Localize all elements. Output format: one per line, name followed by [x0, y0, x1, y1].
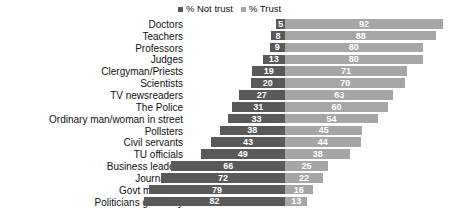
bar-value-not-trust: 5 — [276, 19, 285, 28]
chart-row: Ordinary man/woman in street3354 — [0, 113, 459, 125]
bar-not-trust: 8 — [271, 31, 285, 41]
bar-trust: 60 — [285, 102, 388, 112]
chart-row: Civil servants4344 — [0, 136, 459, 148]
bar-trust: 16 — [285, 185, 313, 195]
bar-value-not-trust: 72 — [161, 173, 285, 182]
chart-row: Professors980 — [0, 42, 459, 54]
bar-not-trust: 72 — [161, 173, 285, 183]
bar-value-trust: 88 — [285, 31, 436, 40]
bar-trust: 38 — [285, 149, 350, 159]
chart-row: Business leaders6625 — [0, 160, 459, 172]
chart-row: Govt ministers7916 — [0, 184, 459, 196]
bar-trust: 63 — [285, 90, 393, 100]
bar-group: 888 — [0, 31, 459, 41]
diverging-bar-chart: % Not trust % Trust Doctors592Teachers88… — [0, 0, 459, 216]
bar-group: 2763 — [0, 90, 459, 100]
chart-row: Pollsters3845 — [0, 125, 459, 137]
bar-value-not-trust: 38 — [220, 126, 285, 135]
bar-not-trust: 82 — [144, 197, 285, 207]
bar-value-trust: 60 — [285, 102, 388, 111]
bar-not-trust: 49 — [201, 149, 285, 159]
bar-value-trust: 25 — [285, 161, 328, 170]
square-swatch-icon — [178, 7, 183, 12]
bar-not-trust: 66 — [171, 161, 285, 171]
bar-value-trust: 44 — [285, 138, 361, 147]
bar-not-trust: 79 — [149, 185, 285, 195]
chart-row: TU officials4938 — [0, 148, 459, 160]
bar-value-not-trust: 66 — [171, 161, 285, 170]
bar-value-trust: 92 — [285, 19, 443, 28]
bar-group: 3354 — [0, 114, 459, 124]
chart-row: TV newsreaders2763 — [0, 89, 459, 101]
bar-not-trust: 13 — [263, 55, 285, 65]
chart-row: The Police3160 — [0, 101, 459, 113]
bar-group: 8213 — [0, 197, 459, 207]
bar-group: 4938 — [0, 149, 459, 159]
bar-value-not-trust: 49 — [201, 150, 285, 159]
bar-group: 592 — [0, 19, 459, 29]
bar-value-trust: 13 — [285, 197, 307, 206]
legend-label-trust: % Trust — [249, 4, 281, 14]
bar-value-not-trust: 82 — [144, 197, 285, 206]
bar-not-trust: 33 — [228, 114, 285, 124]
bar-trust: 71 — [285, 66, 407, 76]
bar-not-trust: 20 — [251, 78, 285, 88]
legend-entry-not-trust: % Not trust — [178, 4, 233, 14]
bar-not-trust: 31 — [232, 102, 285, 112]
bar-not-trust: 38 — [220, 126, 285, 136]
bar-trust: 88 — [285, 31, 436, 41]
legend-entry-trust: % Trust — [241, 4, 281, 14]
bar-trust: 22 — [285, 173, 323, 183]
bar-value-not-trust: 19 — [252, 67, 285, 76]
bar-not-trust: 5 — [276, 19, 285, 29]
chart-row: Doctors592 — [0, 18, 459, 30]
bar-value-trust: 71 — [285, 67, 407, 76]
chart-row: Politicians generally8213 — [0, 196, 459, 208]
bar-trust: 70 — [285, 78, 405, 88]
bar-group: 7222 — [0, 173, 459, 183]
bar-value-not-trust: 9 — [270, 43, 285, 52]
bar-trust: 45 — [285, 126, 362, 136]
bar-trust: 80 — [285, 43, 423, 53]
bar-value-trust: 70 — [285, 79, 405, 88]
bar-trust: 44 — [285, 137, 361, 147]
bar-group: 3845 — [0, 126, 459, 136]
bar-value-trust: 38 — [285, 150, 350, 159]
chart-row: Scientists2070 — [0, 77, 459, 89]
bar-value-trust: 16 — [285, 185, 313, 194]
bar-group: 6625 — [0, 161, 459, 171]
chart-row: Judges1380 — [0, 54, 459, 66]
bar-value-trust: 22 — [285, 173, 323, 182]
bar-value-trust: 45 — [285, 126, 362, 135]
bar-not-trust: 43 — [211, 137, 285, 147]
bar-trust: 13 — [285, 197, 307, 207]
bar-group: 1971 — [0, 66, 459, 76]
bar-trust: 54 — [285, 114, 378, 124]
bar-value-not-trust: 13 — [263, 55, 285, 64]
bar-value-not-trust: 33 — [228, 114, 285, 123]
bar-not-trust: 9 — [270, 43, 285, 53]
bar-value-trust: 80 — [285, 55, 423, 64]
chart-row: Teachers888 — [0, 30, 459, 42]
square-swatch-icon — [241, 7, 246, 12]
bar-value-not-trust: 8 — [271, 31, 285, 40]
bar-trust: 92 — [285, 19, 443, 29]
bar-not-trust: 19 — [252, 66, 285, 76]
bar-value-trust: 63 — [285, 90, 393, 99]
chart-legend: % Not trust % Trust — [0, 2, 459, 16]
legend-label-not-trust: % Not trust — [186, 4, 233, 14]
bar-value-trust: 80 — [285, 43, 423, 52]
bar-trust: 25 — [285, 161, 328, 171]
bar-trust: 80 — [285, 55, 423, 65]
bar-group: 7916 — [0, 185, 459, 195]
plot-area: Doctors592Teachers888Professors980Judges… — [0, 18, 459, 216]
bar-group: 4344 — [0, 137, 459, 147]
chart-row: Clergyman/Priests1971 — [0, 65, 459, 77]
bar-value-not-trust: 79 — [149, 185, 285, 194]
bar-group: 980 — [0, 43, 459, 53]
chart-row: Journalists7222 — [0, 172, 459, 184]
bar-value-trust: 54 — [285, 114, 378, 123]
bar-value-not-trust: 43 — [211, 138, 285, 147]
bar-not-trust: 27 — [239, 90, 285, 100]
bar-value-not-trust: 31 — [232, 102, 285, 111]
